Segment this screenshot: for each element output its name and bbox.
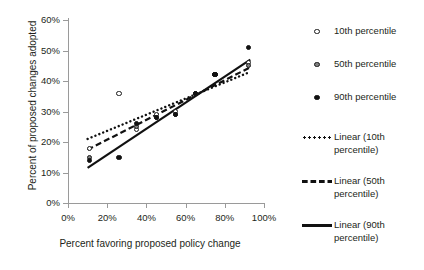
y-tick-label-text: 30%	[41, 106, 60, 117]
trendlines-layer	[68, 20, 264, 203]
x-tick-mark	[264, 203, 265, 208]
x-tick-label: 100%	[244, 212, 284, 225]
legend-key	[300, 175, 334, 188]
filled-circle-icon	[314, 95, 319, 100]
y-tick-label-text: 40%	[41, 75, 60, 86]
x-tick-label-text: 0%	[48, 212, 88, 223]
legend-key	[300, 91, 334, 104]
legend-key	[300, 219, 334, 232]
x-tick-label: 20%	[87, 212, 127, 225]
legend-item-label: 10th percentile	[334, 25, 396, 38]
data-point	[87, 146, 92, 151]
chart-legend: 10th percentile50th percentile90th perce…	[300, 0, 424, 270]
y-axis-title: Percent of proposed changes adopted	[27, 6, 38, 206]
legend-item-label: Linear (10th percentile)	[334, 131, 424, 156]
data-point	[87, 158, 92, 163]
y-tick-label-text: 20%	[41, 136, 60, 147]
x-tick-label-text: 40%	[126, 212, 166, 223]
data-point	[116, 91, 121, 96]
legend-item-label: Linear (50th percentile)	[334, 175, 424, 200]
legend-key	[300, 25, 334, 38]
x-tick-label: 80%	[205, 212, 245, 225]
legend-item: 10th percentile	[300, 25, 424, 38]
y-tick-label-text: 10%	[41, 167, 60, 178]
chart-figure: 0%10%20%30%40%50%60% 0%20%40%60%80%100% …	[0, 0, 424, 270]
open-circle-icon	[314, 29, 319, 34]
y-tick-label-text: 50%	[41, 45, 60, 56]
y-tick-label-text: 0%	[46, 197, 60, 208]
x-tick-label-text: 80%	[205, 212, 245, 223]
legend-item-label: 90th percentile	[334, 91, 396, 104]
solid-line-icon	[302, 224, 332, 227]
x-axis-title: Percent favoring proposed policy change	[20, 238, 280, 249]
x-tick-label-text: 20%	[87, 212, 127, 223]
legend-item: 50th percentile	[300, 58, 424, 71]
legend-item: Linear (10th percentile)	[300, 131, 424, 156]
legend-item: Linear (90th percentile)	[300, 219, 424, 244]
y-tick-label-text: 60%	[41, 14, 60, 25]
dotted-line-icon	[302, 136, 332, 139]
x-tick-label: 40%	[126, 212, 166, 225]
data-point	[193, 91, 198, 96]
trendline-solid	[88, 60, 251, 168]
legend-item-label: 50th percentile	[334, 58, 396, 71]
gray-circle-icon	[314, 62, 319, 67]
trendline-dotted	[88, 72, 251, 139]
legend-item: Linear (50th percentile)	[300, 175, 424, 200]
legend-key	[300, 58, 334, 71]
x-tick-label: 60%	[166, 212, 206, 225]
trendline-dashed	[88, 67, 251, 149]
x-tick-label: 0%	[48, 212, 88, 225]
data-point	[154, 115, 159, 120]
x-tick-label-text: 100%	[244, 212, 284, 223]
dashed-line-icon	[302, 180, 332, 183]
plot-area	[68, 20, 264, 203]
data-point	[116, 155, 121, 160]
legend-key	[300, 131, 334, 144]
data-point	[246, 45, 251, 50]
legend-item: 90th percentile	[300, 91, 424, 104]
x-tick-label-text: 60%	[166, 212, 206, 223]
legend-item-label: Linear (90th percentile)	[334, 219, 424, 244]
